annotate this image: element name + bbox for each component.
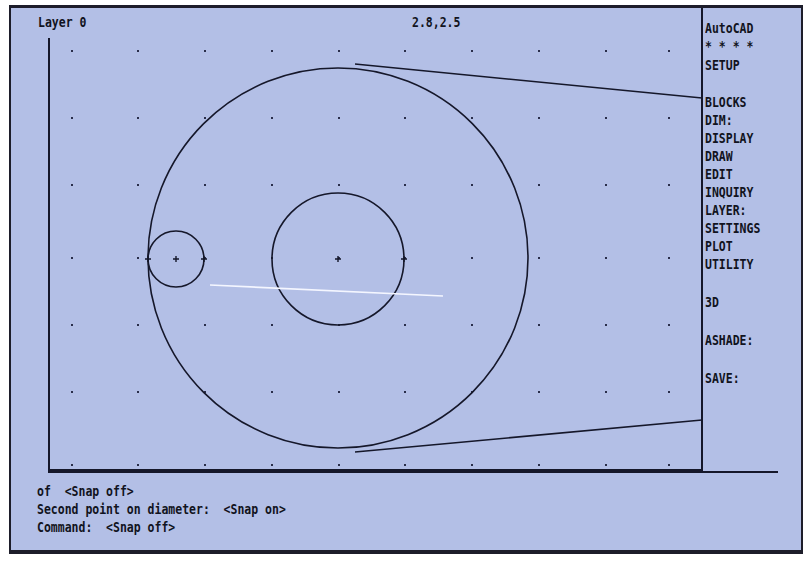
- drawing-entities: [145, 64, 702, 452]
- grid-dot: [404, 324, 406, 326]
- grid-dot: [404, 464, 406, 466]
- cursor-coordinates: 2.8,2.5: [412, 14, 460, 30]
- grid-dot: [471, 464, 473, 466]
- menu-item-3d[interactable]: 3D: [705, 294, 719, 310]
- grid-dot: [204, 184, 206, 186]
- grid-dot: [204, 50, 206, 52]
- grid-dot: [137, 391, 139, 393]
- menu-item-blocks[interactable]: BLOCKS: [705, 94, 746, 110]
- grid-dot: [668, 117, 670, 119]
- rubberband-cursor-line: [210, 285, 443, 296]
- grid-dot: [338, 50, 340, 52]
- grid-dot: [605, 50, 607, 52]
- menu-item-draw[interactable]: DRAW: [705, 148, 733, 164]
- grid-dot: [137, 324, 139, 326]
- menu-item-setup[interactable]: SETUP: [705, 57, 740, 73]
- grid-dot: [71, 464, 73, 466]
- grid-dot: [404, 50, 406, 52]
- point-marker-icon: [201, 256, 207, 262]
- grid-dot: [204, 324, 206, 326]
- grid-dot: [538, 117, 540, 119]
- grid-dot: [137, 257, 139, 259]
- menu-item-settings[interactable]: SETTINGS: [705, 220, 760, 236]
- command-history-line-2: Second point on diameter: <Snap on>: [37, 501, 286, 517]
- grid-dot: [471, 50, 473, 52]
- menu-item-ashade[interactable]: ASHADE:: [705, 332, 753, 348]
- grid-dot: [404, 184, 406, 186]
- grid-dot: [338, 391, 340, 393]
- grid-dot: [137, 117, 139, 119]
- grid-dot: [668, 184, 670, 186]
- grid-dot: [271, 117, 273, 119]
- point-marker-icon: [401, 256, 407, 262]
- grid-dot: [271, 184, 273, 186]
- grid-dot: [204, 117, 206, 119]
- grid-dot: [605, 464, 607, 466]
- grid-dot: [538, 464, 540, 466]
- grid-dot: [471, 324, 473, 326]
- command-history-line-1: of <Snap off>: [37, 483, 134, 499]
- menu-item-utility[interactable]: UTILITY: [705, 256, 753, 272]
- grid-dot: [668, 324, 670, 326]
- grid-dot: [71, 50, 73, 52]
- menu-item-autocad[interactable]: AutoCAD: [705, 20, 753, 36]
- grid-dot: [137, 464, 139, 466]
- menu-item-plot[interactable]: PLOT: [705, 238, 733, 254]
- grid-dot: [668, 464, 670, 466]
- grid-dot: [71, 324, 73, 326]
- grid-dot: [471, 257, 473, 259]
- grid-dot: [538, 324, 540, 326]
- command-prompt[interactable]: Command: <Snap off>: [37, 519, 175, 535]
- grid-dot: [668, 391, 670, 393]
- grid-dot: [71, 117, 73, 119]
- grid-dot: [204, 464, 206, 466]
- grid-dot: [538, 257, 540, 259]
- menu-item-edit[interactable]: EDIT: [705, 166, 733, 182]
- grid-dot: [605, 257, 607, 259]
- menu-item-stars[interactable]: * * * *: [705, 38, 753, 54]
- grid-dot: [538, 391, 540, 393]
- grid-dot: [538, 184, 540, 186]
- point-marker-icon: [335, 256, 341, 262]
- grid-dot: [271, 391, 273, 393]
- point-marker-icon: [173, 256, 179, 262]
- current-layer: Layer 0: [38, 14, 86, 30]
- grid-dot: [605, 391, 607, 393]
- snap-grid: [71, 50, 670, 466]
- menu-item-save[interactable]: SAVE:: [705, 370, 740, 386]
- grid-dot: [338, 464, 340, 466]
- point-marker-icon: [145, 256, 151, 262]
- grid-dot: [404, 117, 406, 119]
- grid-dot: [668, 257, 670, 259]
- grid-dot: [538, 50, 540, 52]
- grid-dot: [404, 391, 406, 393]
- grid-dot: [471, 184, 473, 186]
- grid-dot: [137, 184, 139, 186]
- grid-dot: [71, 184, 73, 186]
- grid-dot: [668, 50, 670, 52]
- menu-item-inquiry[interactable]: INQUIRY: [705, 184, 753, 200]
- grid-dot: [271, 50, 273, 52]
- menu-item-dim[interactable]: DIM:: [705, 112, 733, 128]
- menu-item-layer[interactable]: LAYER:: [705, 202, 746, 218]
- grid-dot: [605, 117, 607, 119]
- lower-tangent-line: [355, 420, 702, 452]
- grid-dot: [71, 391, 73, 393]
- grid-dot: [605, 184, 607, 186]
- grid-dot: [338, 117, 340, 119]
- grid-dot: [71, 257, 73, 259]
- grid-dot: [271, 464, 273, 466]
- grid-dot: [605, 324, 607, 326]
- grid-dot: [338, 184, 340, 186]
- grid-dot: [137, 50, 139, 52]
- menu-item-display[interactable]: DISPLAY: [705, 130, 753, 146]
- grid-dot: [471, 117, 473, 119]
- grid-dot: [271, 324, 273, 326]
